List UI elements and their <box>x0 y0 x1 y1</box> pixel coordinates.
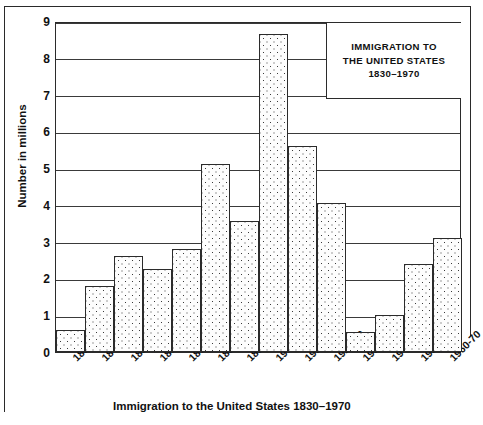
chart-title-line-3: 1830–1970 <box>343 67 446 81</box>
x-axis-caption: Immigration to the United States 1830–19… <box>113 400 351 412</box>
bar-1830-40 <box>56 330 85 352</box>
y-tick-label-2: 2 <box>26 273 50 285</box>
bar-1930-40 <box>346 332 375 352</box>
bar-1890-00 <box>230 221 259 352</box>
gridline-4 <box>56 206 460 207</box>
y-tick-label-7: 7 <box>26 90 50 102</box>
bar-1920-30 <box>317 203 346 352</box>
plot-area: IMMIGRATION TOTHE UNITED STATES1830–1970 <box>55 22 461 353</box>
y-tick-label-6: 6 <box>26 126 50 138</box>
y-tick-label-3: 3 <box>26 237 50 249</box>
chart-title-line-1: IMMIGRATION TO <box>343 40 446 54</box>
bar-1900-10 <box>259 34 288 352</box>
bar-1850-60 <box>114 256 143 352</box>
bar-1880-90 <box>201 164 230 352</box>
bar-1840-50 <box>85 286 114 352</box>
y-tick-label-4: 4 <box>26 200 50 212</box>
y-tick-label-8: 8 <box>26 53 50 65</box>
chart-title-line-2: THE UNITED STATES <box>343 54 446 68</box>
y-tick-label-0: 0 <box>26 347 50 359</box>
chart-title-box: IMMIGRATION TOTHE UNITED STATES1830–1970 <box>326 23 461 99</box>
bar-1860-70 <box>143 269 172 352</box>
bar-1960-70 <box>433 238 462 352</box>
page-border-right-edge <box>470 6 471 336</box>
y-axis-title: Number in millions <box>16 86 28 226</box>
bar-1950-60 <box>404 264 433 352</box>
bar-1870-80 <box>172 249 201 352</box>
gridline-6 <box>56 133 460 134</box>
y-tick-label-5: 5 <box>26 163 50 175</box>
bar-1940-50 <box>375 315 404 352</box>
bar-1910-20 <box>288 146 317 352</box>
y-tick-label-1: 1 <box>26 310 50 322</box>
y-tick-label-9: 9 <box>26 16 50 28</box>
x-axis-tick-labels: 1830-401840-501850-601860-701870-801880-… <box>55 355 461 405</box>
chart-title-text: IMMIGRATION TOTHE UNITED STATES1830–1970 <box>343 40 446 82</box>
gridline-5 <box>56 170 460 171</box>
